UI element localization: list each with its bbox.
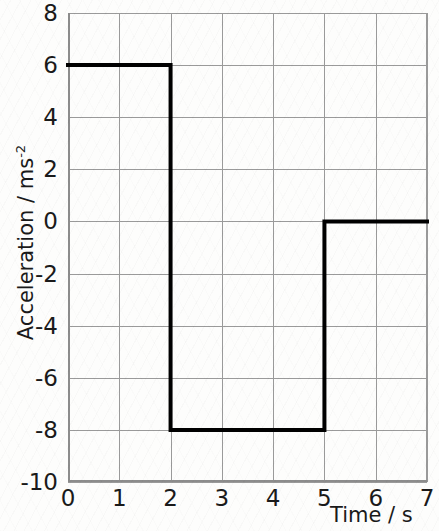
y-tick-label: 0 <box>43 210 58 233</box>
plot-area <box>68 13 427 482</box>
y-tick-label: -10 <box>20 471 58 494</box>
data-series-acceleration <box>68 13 427 482</box>
x-tick-label: 0 <box>61 487 76 510</box>
x-tick-label: 1 <box>112 487 127 510</box>
x-tick-label: 7 <box>420 487 435 510</box>
y-axis-title-text: Acceleration / ms <box>14 158 38 340</box>
y-tick-label: 8 <box>43 2 58 25</box>
x-tick-label: 4 <box>266 487 281 510</box>
y-tick-label: 2 <box>43 158 58 181</box>
y-tick-label: -8 <box>35 418 58 441</box>
chart-page: 86420-2-4-6-8-10 01234567 Acceleration /… <box>0 0 439 531</box>
step-line-path <box>68 65 427 430</box>
y-tick-label: 6 <box>43 54 58 77</box>
gridline-vertical <box>427 13 428 482</box>
x-tick-label: 3 <box>215 487 230 510</box>
y-tick-label: -6 <box>35 366 58 389</box>
y-tick-label: 4 <box>43 106 58 129</box>
y-axis-title-superscript: -2 <box>13 145 28 158</box>
y-tick-label: -4 <box>35 314 58 337</box>
x-axis-title: Time / s <box>330 503 413 527</box>
gridline-horizontal <box>68 482 427 483</box>
y-tick-label: -2 <box>35 262 58 285</box>
y-axis-title: Acceleration / ms-2 <box>13 123 38 363</box>
x-tick-label: 2 <box>163 487 178 510</box>
